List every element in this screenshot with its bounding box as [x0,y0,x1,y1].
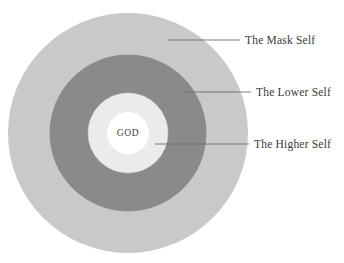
label-higher-self: The Higher Self [254,138,331,151]
concentric-self-diagram: GOD The Mask Self The Lower Self The Hig… [0,0,344,263]
label-mask-self: The Mask Self [245,34,315,46]
label-lower-self: The Lower Self [256,86,331,98]
core-god-label: GOD [117,128,139,138]
diagram-canvas: GOD The Mask Self The Lower Self The Hig… [0,0,344,263]
